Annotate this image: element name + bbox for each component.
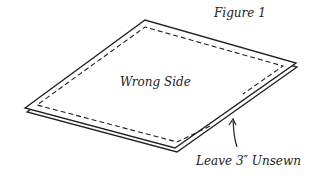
figure-diagram: Figure 1 Wrong Side Leave 3″ Unsewn: [0, 0, 321, 176]
arrow-icon: [233, 121, 237, 147]
figure-title: Figure 1: [214, 6, 266, 20]
unsewn-annotation: Leave 3″ Unsewn: [196, 154, 301, 168]
wrong-side-label: Wrong Side: [120, 75, 191, 89]
